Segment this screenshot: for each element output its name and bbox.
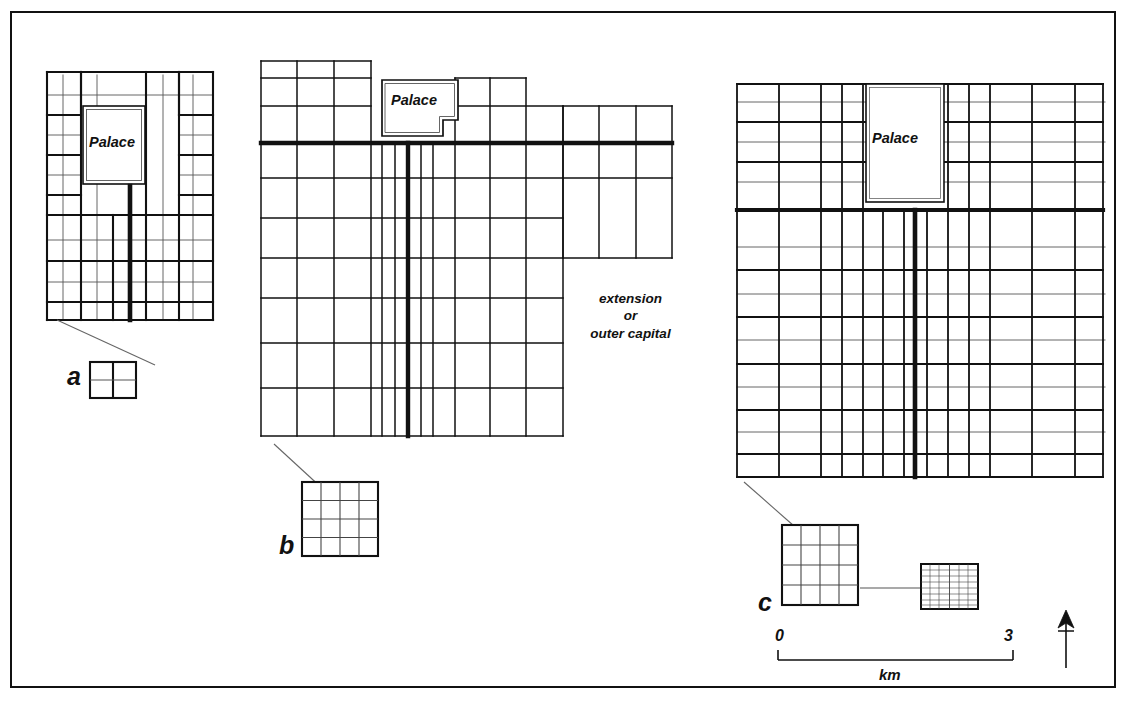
plan-c-palace-label: Palace bbox=[872, 130, 918, 146]
north-arrow-icon bbox=[1051, 608, 1081, 670]
plan-b-palace-label: Palace bbox=[391, 92, 437, 108]
scale-end-label: 3 bbox=[1004, 627, 1013, 645]
plan-c-subinset-connector bbox=[860, 584, 922, 592]
extension-label-line-3: outer capital bbox=[578, 325, 683, 342]
extension-label-line-2: or bbox=[578, 307, 683, 324]
plan-a-inset bbox=[88, 360, 142, 400]
plan-b-inset-grid bbox=[300, 480, 382, 560]
plan-b-extension-label: extension or outer capital bbox=[578, 290, 683, 342]
plan-a-palace-label: Palace bbox=[89, 134, 135, 150]
plan-b: Palace bbox=[258, 58, 678, 448]
plan-a-inset-grid bbox=[88, 360, 142, 400]
plan-b-drawing bbox=[258, 58, 678, 448]
scale-unit-label: km bbox=[879, 666, 901, 683]
plan-b-letter: b bbox=[279, 531, 294, 560]
figure-canvas: Palace a bbox=[0, 0, 1128, 703]
plan-a: Palace bbox=[45, 70, 215, 340]
plan-c-inset-grid bbox=[780, 523, 862, 609]
plan-c-drawing bbox=[735, 82, 1105, 482]
plan-b-inset bbox=[300, 480, 382, 560]
plan-a-letter: a bbox=[67, 362, 81, 391]
scale-start-label: 0 bbox=[775, 627, 784, 645]
plan-c-inset bbox=[780, 523, 862, 609]
plan-a-drawing bbox=[45, 70, 215, 340]
north-arrow bbox=[1051, 608, 1081, 670]
extension-label-line-1: extension bbox=[578, 290, 683, 307]
plan-c-letter: c bbox=[758, 588, 772, 617]
plan-c-subinset-grid bbox=[919, 562, 981, 612]
plan-c-subinset bbox=[919, 562, 981, 612]
plan-c: Palace bbox=[735, 82, 1105, 482]
